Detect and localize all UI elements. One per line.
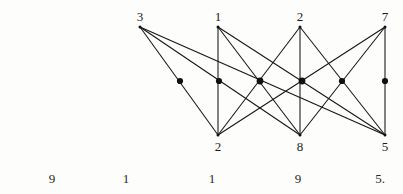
vertex-point [384,26,387,29]
midpoint-dot [382,78,388,84]
top-vertex-label: 2 [289,10,311,23]
midpoint-dot [299,78,306,85]
bottom-vertex-label: 5 [374,140,396,153]
graph-canvas [0,0,403,194]
top-vertex-label: 7 [374,10,396,23]
bottom-row-number: 1 [200,172,224,185]
midpoint-dot [339,78,345,84]
top-vertex-label: 3 [129,10,151,23]
midpoint-dot [177,78,183,84]
bottom-row-number: 9 [40,172,64,185]
vertex-point [299,26,302,29]
midpoint-dot [216,78,222,84]
bottom-row-number: 1 [114,172,138,185]
vertex-point [217,26,220,29]
vertex-point [299,134,302,137]
figure-root: 3127 285 91195. [0,0,403,194]
top-vertex-label: 1 [207,10,229,23]
bottom-vertex-label: 8 [289,140,311,153]
bottom-vertex-label: 2 [207,140,229,153]
midpoint-dots-group [177,78,388,85]
midpoint-dot [257,78,264,85]
bottom-row-number: 5. [368,172,392,185]
vertex-point [384,134,387,137]
vertex-point [217,134,220,137]
bottom-row-number: 9 [286,172,310,185]
vertex-point [139,26,142,29]
